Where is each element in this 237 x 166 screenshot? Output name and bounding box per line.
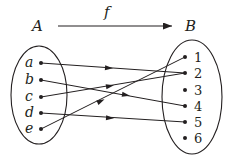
codomain-elements: 1 2 3 4 5 6: [183, 50, 202, 146]
codomain-element-3: 3: [194, 83, 202, 98]
function-label: f: [103, 3, 112, 21]
domain-ellipse: [11, 46, 67, 144]
point-dot: [39, 78, 43, 82]
point-dot: [183, 120, 187, 124]
domain-element-e: e: [25, 120, 33, 136]
domain-element-c: c: [25, 88, 33, 104]
point-dot: [183, 55, 187, 59]
arrowhead-icon: [105, 65, 113, 71]
codomain-element-6: 6: [194, 131, 202, 146]
arrowhead-icon: [96, 97, 105, 105]
point-dot: [39, 95, 43, 99]
point-dot: [183, 71, 187, 75]
domain-set-label: A: [30, 17, 43, 35]
point-dot: [183, 136, 187, 140]
codomain-set-label: B: [184, 17, 196, 35]
domain-element-b: b: [25, 71, 34, 87]
codomain-element-4: 4: [194, 99, 202, 114]
codomain-ellipse: [162, 40, 222, 154]
point-dot: [183, 88, 187, 92]
point-dot: [39, 61, 43, 65]
function-mapping-diagram: B --> A f B a b c d: [0, 0, 237, 166]
domain-elements: a b c d e: [25, 54, 43, 136]
codomain-element-1: 1: [194, 50, 202, 65]
point-dot: [183, 104, 187, 108]
codomain-element-2: 2: [194, 66, 202, 81]
arrowhead-icon: [106, 115, 114, 120]
point-dot: [39, 111, 43, 115]
domain-element-d: d: [25, 104, 34, 120]
arrowhead-icon: [106, 83, 115, 89]
arrowhead-icon: [122, 92, 131, 98]
diagram-canvas: B --> A f B a b c d: [0, 0, 237, 166]
codomain-element-5: 5: [194, 115, 202, 130]
domain-element-a: a: [25, 54, 33, 70]
point-dot: [39, 127, 43, 131]
